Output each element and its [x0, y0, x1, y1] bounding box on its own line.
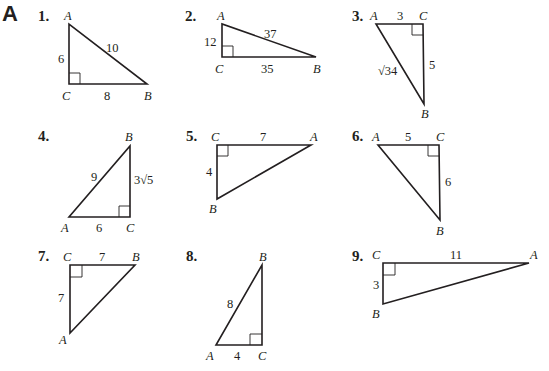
vertex-b: B — [132, 250, 140, 264]
problem-8: 8. B A C 8 4 — [186, 248, 267, 363]
side-cb-length: 5 — [429, 58, 435, 72]
problem-number: 5. — [186, 128, 198, 144]
side-cb-length: 6 — [445, 175, 451, 189]
triangle-7 — [70, 265, 135, 333]
triangle-8 — [216, 265, 262, 345]
problem-4: 4. B A C 9 3√5 6 — [38, 128, 153, 235]
vertex-a: A — [60, 221, 69, 235]
problem-number: 8. — [186, 248, 198, 264]
vertex-a: A — [205, 349, 214, 363]
problem-number: 1. — [38, 8, 50, 24]
right-angle-mark — [70, 265, 82, 277]
vertex-a: A — [529, 248, 538, 262]
vertex-c: C — [126, 221, 135, 235]
section-label: A — [2, 1, 18, 26]
side-ac-length: 3 — [397, 9, 403, 23]
right-angle-mark — [69, 73, 80, 84]
right-angle-mark — [217, 145, 228, 156]
side-ab-length: 37 — [264, 27, 277, 41]
right-angle-mark — [119, 206, 130, 217]
right-angle-mark — [412, 24, 423, 35]
side-cb-length: 35 — [261, 62, 274, 76]
vertex-c: C — [436, 130, 445, 144]
vertex-c: C — [62, 89, 71, 103]
vertex-c: C — [372, 248, 381, 262]
side-cb-length: 3 — [373, 278, 379, 292]
vertex-b: B — [313, 62, 321, 76]
vertex-b: B — [421, 107, 429, 121]
side-ca-length: 7 — [58, 291, 64, 305]
side-cb-length: 8 — [104, 89, 110, 103]
problem-2: 2. A C B 12 37 35 — [185, 8, 321, 76]
vertex-b: B — [372, 307, 380, 321]
right-angle-mark — [428, 145, 439, 156]
vertex-b: B — [259, 250, 267, 264]
problem-number: 3. — [352, 8, 364, 24]
side-ac-length: 6 — [96, 221, 102, 235]
side-ac-length: 5 — [405, 130, 411, 144]
problem-9: 9. C A B 11 3 — [352, 248, 538, 321]
triangle-5 — [217, 145, 311, 199]
problem-3: 3. A C B 3 √34 5 — [352, 8, 435, 121]
vertex-a: A — [371, 130, 380, 144]
triangle-9 — [383, 263, 529, 304]
problem-6: 6. A C B 5 6 — [352, 128, 451, 238]
vertex-a: A — [63, 9, 72, 23]
vertex-b: B — [144, 89, 152, 103]
problem-number: 4. — [38, 128, 50, 144]
vertex-c: C — [215, 62, 224, 76]
vertex-b: B — [436, 224, 444, 238]
problem-1: 1. A C B 6 10 8 — [38, 8, 152, 103]
vertex-b: B — [125, 130, 133, 144]
side-ab-length: 10 — [106, 41, 119, 55]
vertex-c: C — [419, 9, 428, 23]
problem-number: 6. — [352, 128, 364, 144]
side-ca-length: 11 — [450, 248, 462, 262]
problem-number: 2. — [185, 8, 197, 24]
right-angle-mark — [250, 334, 262, 345]
vertex-b: B — [209, 202, 217, 216]
triangle-exercise-sheet: A 1. A C B 6 10 8 2. A C B 12 37 35 3. A… — [0, 0, 549, 371]
side-ac-length: 6 — [58, 52, 64, 66]
side-ab-length: 8 — [227, 297, 233, 311]
side-ac-length: 4 — [234, 349, 241, 363]
vertex-c: C — [211, 130, 220, 144]
right-angle-mark — [383, 263, 395, 275]
problem-7: 7. C B A 7 7 — [38, 248, 140, 347]
right-angle-mark — [222, 46, 233, 57]
vertex-a: A — [369, 9, 378, 23]
side-cb-length: 7 — [99, 250, 105, 264]
problem-number: 7. — [38, 248, 50, 264]
vertex-a: A — [309, 130, 318, 144]
side-ca-length: 7 — [260, 130, 266, 144]
vertex-a: A — [216, 9, 225, 23]
problem-number: 9. — [352, 248, 364, 264]
side-bc-length: 3√5 — [134, 173, 153, 187]
side-ac-length: 12 — [204, 35, 217, 49]
vertex-c: C — [63, 250, 72, 264]
problem-5: 5. C A B 7 4 — [186, 128, 318, 216]
side-ab-length: √34 — [378, 64, 398, 78]
side-ab-length: 9 — [91, 170, 97, 184]
side-cb-length: 4 — [206, 165, 213, 179]
vertex-c: C — [258, 349, 267, 363]
vertex-a: A — [58, 333, 67, 347]
